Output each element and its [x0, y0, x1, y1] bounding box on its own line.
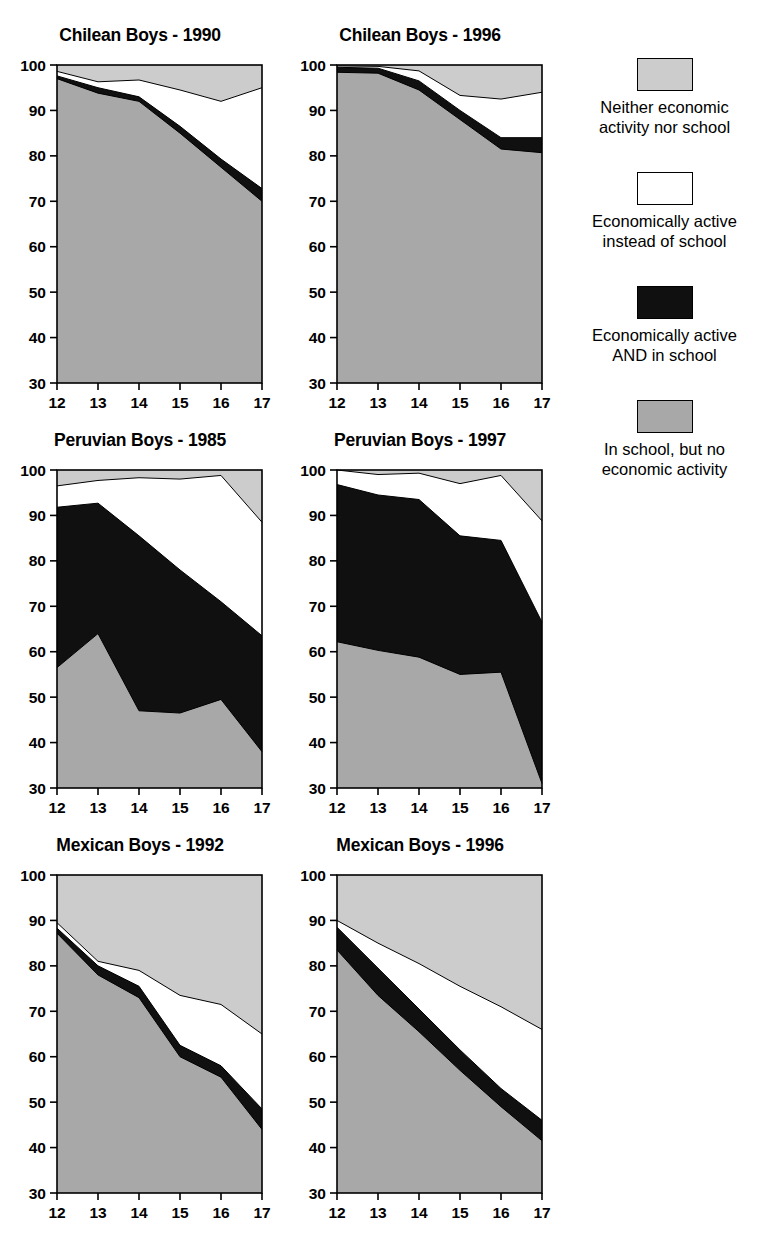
- legend-label: In school, but no economic activity: [560, 440, 769, 479]
- svg-text:90: 90: [309, 912, 326, 929]
- panel-title: Peruvian Boys - 1997: [280, 430, 560, 451]
- svg-text:80: 80: [29, 147, 46, 164]
- chart-panel-mexican-1992: Mexican Boys - 1992 30405060708090100121…: [0, 835, 280, 1235]
- svg-text:17: 17: [533, 1204, 550, 1221]
- svg-text:70: 70: [309, 1003, 326, 1020]
- svg-text:30: 30: [29, 1185, 46, 1202]
- svg-text:16: 16: [212, 799, 230, 816]
- svg-text:90: 90: [29, 912, 46, 929]
- svg-text:40: 40: [309, 734, 326, 751]
- svg-text:12: 12: [328, 799, 345, 816]
- svg-text:50: 50: [29, 1094, 46, 1111]
- svg-text:60: 60: [309, 238, 326, 255]
- panel-title: Chilean Boys - 1996: [280, 25, 560, 46]
- panel-title: Peruvian Boys - 1985: [0, 430, 280, 451]
- svg-text:40: 40: [309, 329, 326, 346]
- svg-text:50: 50: [309, 1094, 326, 1111]
- svg-text:13: 13: [369, 1204, 387, 1221]
- svg-text:60: 60: [29, 1048, 46, 1065]
- svg-text:90: 90: [29, 102, 46, 119]
- legend-swatch-light-gray-icon: [637, 58, 693, 91]
- svg-text:40: 40: [309, 1139, 326, 1156]
- svg-text:80: 80: [29, 957, 46, 974]
- svg-text:80: 80: [309, 147, 326, 164]
- area-chart-svg: 30405060708090100121314151617: [280, 53, 560, 425]
- svg-text:14: 14: [410, 394, 428, 411]
- svg-text:16: 16: [212, 394, 230, 411]
- area-chart-svg: 30405060708090100121314151617: [0, 863, 280, 1235]
- svg-text:70: 70: [309, 193, 326, 210]
- chart-panel-chilean-1990: Chilean Boys - 1990 30405060708090100121…: [0, 25, 280, 425]
- plot-area: 30405060708090100121314151617: [0, 53, 280, 425]
- plot-area: 30405060708090100121314151617: [280, 863, 560, 1235]
- svg-text:50: 50: [29, 284, 46, 301]
- svg-text:12: 12: [48, 394, 65, 411]
- svg-text:100: 100: [300, 462, 326, 479]
- svg-text:17: 17: [533, 394, 550, 411]
- legend-swatch-black-icon: [637, 286, 693, 319]
- svg-text:17: 17: [253, 799, 270, 816]
- svg-text:90: 90: [29, 507, 46, 524]
- figure-root: Chilean Boys - 1990 30405060708090100121…: [0, 0, 769, 1255]
- panel-title: Mexican Boys - 1996: [280, 835, 560, 856]
- svg-text:15: 15: [451, 799, 469, 816]
- svg-text:50: 50: [309, 284, 326, 301]
- svg-text:40: 40: [29, 329, 46, 346]
- svg-text:17: 17: [253, 1204, 270, 1221]
- svg-text:13: 13: [89, 799, 107, 816]
- svg-text:14: 14: [130, 799, 148, 816]
- svg-text:80: 80: [309, 957, 326, 974]
- svg-text:14: 14: [130, 394, 148, 411]
- svg-text:40: 40: [29, 1139, 46, 1156]
- svg-text:60: 60: [29, 238, 46, 255]
- svg-text:12: 12: [48, 799, 65, 816]
- svg-text:12: 12: [328, 394, 345, 411]
- chart-panel-mexican-1996: Mexican Boys - 1996 30405060708090100121…: [280, 835, 560, 1235]
- svg-text:90: 90: [309, 102, 326, 119]
- legend-label: Economically active AND in school: [560, 326, 769, 365]
- chart-panel-peruvian-1997: Peruvian Boys - 1997 3040506070809010012…: [280, 430, 560, 830]
- area-chart-svg: 30405060708090100121314151617: [0, 53, 280, 425]
- legend-item-active-instead-of-school[interactable]: Economically active instead of school: [560, 172, 769, 251]
- svg-text:15: 15: [171, 799, 189, 816]
- svg-text:100: 100: [20, 867, 46, 884]
- svg-text:30: 30: [29, 375, 46, 392]
- plot-area: 30405060708090100121314151617: [0, 863, 280, 1235]
- plot-area: 30405060708090100121314151617: [280, 458, 560, 830]
- svg-text:30: 30: [309, 375, 326, 392]
- legend-swatch-white-icon: [637, 172, 693, 205]
- svg-text:70: 70: [29, 1003, 46, 1020]
- svg-text:100: 100: [20, 57, 46, 74]
- svg-text:14: 14: [130, 1204, 148, 1221]
- svg-text:16: 16: [492, 1204, 510, 1221]
- svg-text:14: 14: [410, 1204, 428, 1221]
- svg-text:60: 60: [309, 643, 326, 660]
- legend-item-neither[interactable]: Neither economic activity nor school: [560, 58, 769, 137]
- area-chart-svg: 30405060708090100121314151617: [280, 458, 560, 830]
- svg-text:16: 16: [492, 799, 510, 816]
- svg-text:13: 13: [369, 799, 387, 816]
- svg-text:15: 15: [451, 1204, 469, 1221]
- plot-area: 30405060708090100121314151617: [280, 53, 560, 425]
- svg-text:13: 13: [89, 394, 107, 411]
- svg-text:40: 40: [29, 734, 46, 751]
- svg-text:16: 16: [212, 1204, 230, 1221]
- svg-text:14: 14: [410, 799, 428, 816]
- svg-text:30: 30: [309, 780, 326, 797]
- panel-title: Chilean Boys - 1990: [0, 25, 280, 46]
- area-chart-svg: 30405060708090100121314151617: [0, 458, 280, 830]
- svg-text:13: 13: [369, 394, 387, 411]
- svg-text:15: 15: [451, 394, 469, 411]
- svg-text:15: 15: [171, 1204, 189, 1221]
- chart-panel-peruvian-1985: Peruvian Boys - 1985 3040506070809010012…: [0, 430, 280, 830]
- svg-text:50: 50: [309, 689, 326, 706]
- svg-text:60: 60: [309, 1048, 326, 1065]
- svg-text:100: 100: [300, 57, 326, 74]
- legend-item-active-and-school[interactable]: Economically active AND in school: [560, 286, 769, 365]
- legend-label: Economically active instead of school: [560, 212, 769, 251]
- legend: Neither economic activity nor school Eco…: [560, 50, 769, 480]
- legend-item-in-school-no-activity[interactable]: In school, but no economic activity: [560, 400, 769, 479]
- svg-text:70: 70: [29, 193, 46, 210]
- svg-text:70: 70: [309, 598, 326, 615]
- svg-text:16: 16: [492, 394, 510, 411]
